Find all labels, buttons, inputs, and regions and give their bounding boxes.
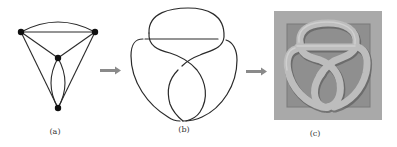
panel-label-b: (b) <box>169 125 199 134</box>
graph-edge <box>58 58 65 108</box>
graph-node <box>55 105 61 111</box>
panel-label-c: (c) <box>300 129 330 138</box>
graph-diagram <box>0 0 110 147</box>
right-arrow-icon <box>100 66 122 75</box>
graph-edge <box>51 58 58 108</box>
panel-a-graph <box>0 0 110 147</box>
knot-relief-image <box>274 11 382 120</box>
graph-node <box>92 29 98 35</box>
graph-edge <box>21 22 95 32</box>
graph-node <box>55 55 61 61</box>
right-arrow-icon <box>246 67 268 76</box>
graph-node <box>18 29 24 35</box>
graph-edge <box>58 32 95 58</box>
graph-edge <box>21 32 58 58</box>
panel-label-a: (a) <box>40 127 70 136</box>
panel-c-relief <box>274 11 382 120</box>
